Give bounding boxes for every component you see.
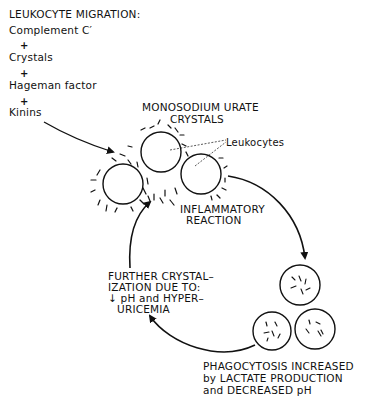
urate-crystals — [91, 120, 227, 212]
migration-arrow — [44, 122, 113, 152]
phagocyte-circle — [280, 265, 320, 305]
leukocyte-circle — [103, 164, 143, 204]
leukocyte-circle — [181, 154, 221, 194]
phagocytosis-to-crystallization-arrow — [150, 316, 255, 352]
reaction-to-phagocytosis-arrow — [228, 176, 305, 258]
phagocyte-circle — [295, 309, 335, 349]
leukocyte-circle — [141, 132, 181, 172]
crystallization-to-reaction-arrow — [130, 202, 150, 268]
diagram-graphics — [0, 0, 373, 403]
